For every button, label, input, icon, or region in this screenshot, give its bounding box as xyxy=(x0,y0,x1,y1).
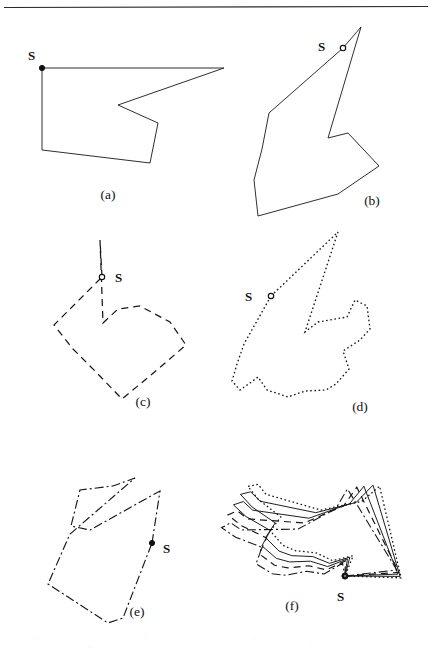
polygon-a xyxy=(42,68,224,163)
panel-b: S (b) xyxy=(254,27,380,216)
polygon-d xyxy=(232,232,370,397)
start-vertex-a xyxy=(39,65,44,70)
caption-c: (c) xyxy=(136,394,151,409)
start-vertex-d xyxy=(268,293,273,298)
start-label-f: S xyxy=(337,589,344,604)
start-vertex-e xyxy=(149,540,154,545)
panel-f: S (f) xyxy=(219,472,411,613)
start-vertex-f-ring xyxy=(344,575,347,578)
top-rule xyxy=(4,7,428,8)
caption-f: (f) xyxy=(285,598,299,613)
start-label-e: S xyxy=(163,541,170,556)
caption-d: (d) xyxy=(352,399,368,414)
overlay-polygon-solid-2 xyxy=(237,479,404,578)
overlay-polygon-dashed xyxy=(227,484,399,590)
start-label-a: S xyxy=(28,48,35,63)
panel-a: S (a) xyxy=(28,48,224,202)
caption-a: (a) xyxy=(101,187,116,202)
caption-e: (e) xyxy=(130,604,145,619)
polygon-b xyxy=(254,27,379,216)
polygon-figure: S (a) S (b) S (c) S (d) S xyxy=(0,0,431,655)
caption-b: (b) xyxy=(364,193,380,208)
polygon-c xyxy=(54,240,186,399)
panel-e: S (e) xyxy=(48,478,170,623)
start-vertex-b xyxy=(340,45,345,50)
start-label-c: S xyxy=(115,270,122,285)
start-label-b: S xyxy=(318,39,325,54)
figure-page: S (a) S (b) S (c) S (d) S xyxy=(0,0,431,655)
polygon-e xyxy=(48,478,160,623)
start-vertex-c xyxy=(99,274,104,279)
start-label-d: S xyxy=(245,289,252,304)
panel-d: S (d) xyxy=(232,232,370,414)
panel-c: S (c) xyxy=(54,240,186,409)
